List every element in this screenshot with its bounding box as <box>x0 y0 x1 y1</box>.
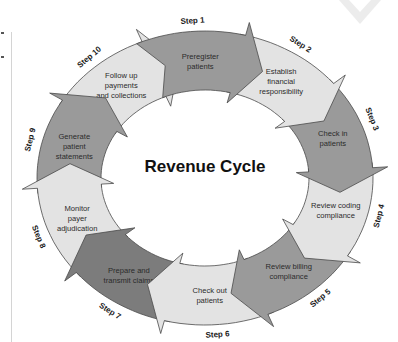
step-label-8: Step 8 <box>30 224 48 250</box>
cycle-arrows: Follow uppaymentsand collectionsGenerate… <box>22 23 387 334</box>
step-label-6: Step 6 <box>205 329 230 340</box>
arrow-label-step-3: Check inpatients <box>318 129 348 148</box>
cycle-diagram: Follow uppaymentsand collectionsGenerate… <box>0 0 398 342</box>
arrow-label-step-6: Check outpatients <box>193 286 228 305</box>
step-label-1: Step 1 <box>180 15 205 26</box>
step-label-9: Step 9 <box>23 127 38 153</box>
arrow-label-step-4: Review codingcompliance <box>311 201 360 220</box>
arrow-label-step-5: Review billingcompliance <box>265 262 311 281</box>
step-label-4: Step 4 <box>372 203 387 229</box>
step-label-2: Step 2 <box>288 34 314 55</box>
center-title: Revenue Cycle <box>145 157 266 176</box>
revenue-cycle-figure: Follow uppaymentsand collectionsGenerate… <box>0 0 398 342</box>
arrow-label-step-7: Prepare andtransmit claims <box>104 266 155 285</box>
step-label-3: Step 3 <box>363 106 381 132</box>
